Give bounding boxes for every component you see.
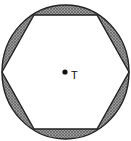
inscribed-hexagon-diagram: T xyxy=(0,0,131,141)
center-point-label: T xyxy=(71,69,78,81)
center-point-dot xyxy=(62,69,67,74)
